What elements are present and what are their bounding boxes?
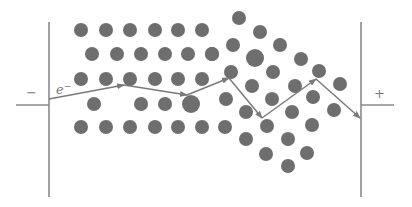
atom bbox=[226, 38, 240, 52]
atom bbox=[265, 92, 279, 106]
atom bbox=[333, 77, 347, 91]
atom bbox=[99, 72, 113, 86]
atom bbox=[171, 72, 185, 86]
atom bbox=[195, 23, 209, 37]
electron-symbol: e bbox=[56, 82, 64, 97]
atom bbox=[123, 23, 137, 37]
atom bbox=[246, 49, 264, 67]
atom bbox=[253, 25, 267, 39]
atom bbox=[239, 132, 253, 146]
atom bbox=[148, 72, 162, 86]
atom bbox=[224, 65, 238, 79]
atom bbox=[273, 38, 287, 52]
atom bbox=[195, 120, 209, 134]
atom bbox=[327, 103, 341, 117]
atom bbox=[260, 119, 274, 133]
atom bbox=[182, 95, 200, 113]
atom bbox=[158, 97, 172, 111]
atom bbox=[306, 90, 320, 104]
atom bbox=[74, 120, 88, 134]
atom bbox=[305, 118, 319, 132]
atom bbox=[232, 11, 246, 25]
electron-path-segment bbox=[124, 85, 187, 95]
crystal-lattice bbox=[74, 11, 347, 173]
positive-terminal-label: + bbox=[374, 87, 385, 100]
atom bbox=[285, 105, 299, 119]
atom bbox=[123, 120, 137, 134]
atom bbox=[300, 146, 314, 160]
atom bbox=[110, 47, 124, 61]
atom bbox=[99, 120, 113, 134]
atom bbox=[85, 47, 99, 61]
atom bbox=[134, 97, 148, 111]
atom bbox=[239, 105, 253, 119]
atom bbox=[281, 132, 295, 146]
atom bbox=[171, 23, 185, 37]
atom bbox=[195, 72, 209, 86]
atom bbox=[281, 159, 295, 173]
atom bbox=[259, 147, 273, 161]
atom bbox=[266, 65, 280, 79]
atom bbox=[134, 47, 148, 61]
atom bbox=[158, 47, 172, 61]
atom bbox=[294, 52, 308, 66]
atom bbox=[74, 72, 88, 86]
atom bbox=[148, 120, 162, 134]
atom bbox=[181, 47, 195, 61]
atom bbox=[205, 47, 219, 61]
electron-charge: − bbox=[64, 81, 72, 91]
atom bbox=[74, 23, 88, 37]
electron-scattering-diagram bbox=[0, 0, 412, 207]
atom bbox=[218, 120, 232, 134]
atom bbox=[245, 79, 259, 93]
atom bbox=[219, 92, 233, 106]
electron-label: e− bbox=[56, 82, 71, 96]
atom bbox=[312, 64, 326, 78]
atom bbox=[99, 23, 113, 37]
negative-terminal-label: − bbox=[26, 86, 37, 99]
atom bbox=[87, 97, 101, 111]
atom bbox=[123, 72, 137, 86]
atom bbox=[148, 23, 162, 37]
atom bbox=[171, 120, 185, 134]
